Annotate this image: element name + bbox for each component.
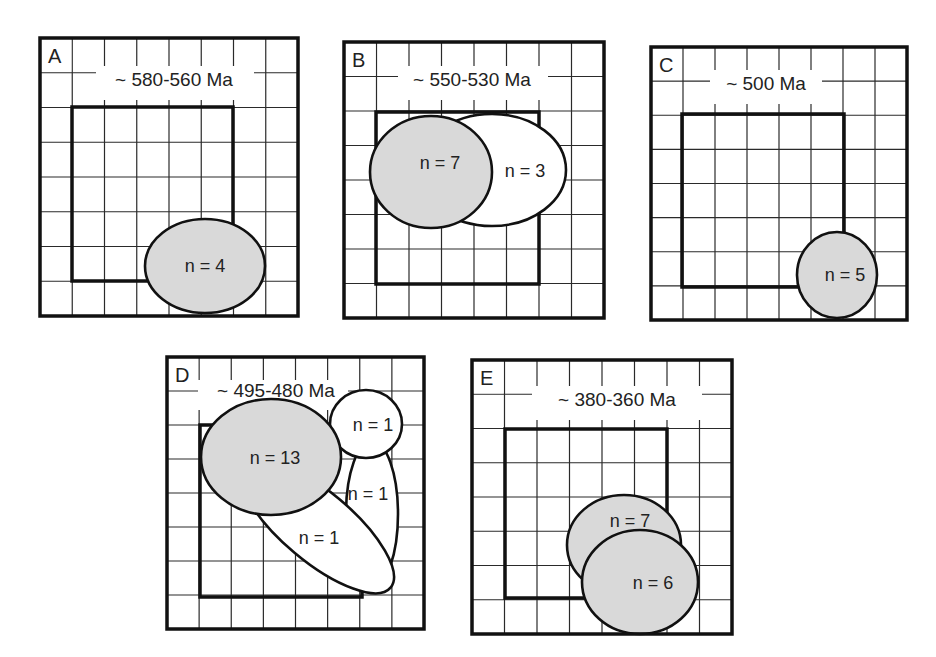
paleogeography-figure: n = 4A~ 580-560 Man = 3n = 7B~ 550-530 M… <box>0 0 936 657</box>
panel-e: n = 7n = 6E~ 380-360 Ma <box>472 360 732 634</box>
panel-d: n = 1n = 1n = 1n = 13D~ 495-480 Ma <box>167 357 424 629</box>
panel-age-title: ~ 580-560 Ma <box>115 69 233 90</box>
panel-b: n = 3n = 7B~ 550-530 Ma <box>344 42 604 318</box>
panel-c: n = 5C~ 500 Ma <box>651 47 907 320</box>
panel-letter: C <box>659 54 673 76</box>
sample-count-label: n = 3 <box>505 161 546 181</box>
panel-age-title: ~ 550-530 Ma <box>413 69 531 90</box>
panel-age-title: ~ 380-360 Ma <box>558 389 676 410</box>
sample-count-label: n = 6 <box>633 573 674 593</box>
sample-count-label: n = 1 <box>348 484 389 504</box>
panel-letter: D <box>175 364 189 386</box>
panel-letter: A <box>48 45 62 67</box>
panel-letter: E <box>480 367 493 389</box>
sample-count-label: n = 7 <box>610 511 651 531</box>
sample-count-label: n = 1 <box>299 528 340 548</box>
sample-count-label: n = 5 <box>825 265 866 285</box>
sample-count-label: n = 13 <box>250 448 301 468</box>
panel-age-title: ~ 500 Ma <box>726 73 806 94</box>
sample-count-label: n = 4 <box>185 256 226 276</box>
sample-count-label: n = 1 <box>353 415 394 435</box>
panel-a: n = 4A~ 580-560 Ma <box>40 38 298 316</box>
panel-letter: B <box>352 49 365 71</box>
sample-count-label: n = 7 <box>420 153 461 173</box>
panel-age-title: ~ 495-480 Ma <box>217 380 335 401</box>
